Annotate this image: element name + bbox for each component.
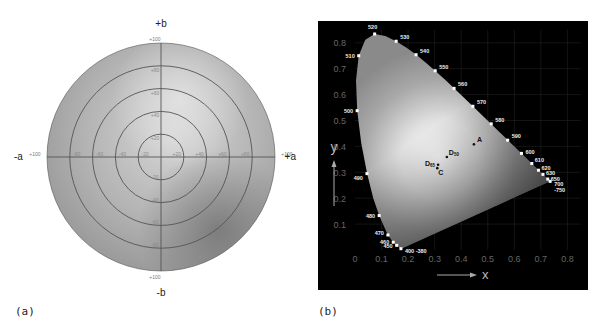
wavelength-label: 580 bbox=[495, 117, 504, 123]
wavelength-label: 530 bbox=[400, 34, 409, 40]
wavelength-marker-580 bbox=[490, 122, 493, 125]
tick-a: +20 bbox=[173, 151, 182, 157]
x-tick: 0.7 bbox=[535, 254, 548, 264]
cielab-panel: +100-80-60-40-20+20+40+60+80+100+100+80+… bbox=[0, 0, 300, 334]
y-tick: 0.8 bbox=[333, 38, 346, 48]
wavelength-label: 540 bbox=[420, 48, 429, 54]
y-tick: 0.5 bbox=[333, 116, 346, 126]
y-tick: 0.1 bbox=[333, 220, 346, 230]
tick-a: -20 bbox=[142, 151, 149, 157]
wavelength-marker-490 bbox=[365, 172, 368, 175]
x-tick: 0.4 bbox=[455, 254, 468, 264]
tick-b-neg: -40 bbox=[151, 197, 158, 203]
x-tick: 0.5 bbox=[481, 254, 494, 264]
wavelength-label: 490 bbox=[354, 175, 363, 181]
wavelength-label: -750 bbox=[554, 187, 565, 193]
wavelength-marker-480 bbox=[378, 214, 381, 217]
wavelength-label: 550 bbox=[439, 64, 448, 70]
axis-label-neg-a: -a bbox=[14, 151, 23, 162]
x-tick: 0.2 bbox=[402, 254, 415, 264]
tick-b-pos: +80 bbox=[151, 67, 160, 73]
wavelength-marker-500 bbox=[356, 109, 359, 112]
wavelength-marker-550 bbox=[434, 69, 437, 72]
axis-label-pos-b: +b bbox=[155, 18, 167, 29]
x-tick: 0.3 bbox=[428, 254, 441, 264]
cie-xy-diagram: 5205305405505605705805906006106206306507… bbox=[300, 0, 606, 334]
wavelength-marker-530 bbox=[395, 40, 398, 43]
wavelength-label: 480 bbox=[366, 213, 375, 219]
x-tick: 0.6 bbox=[508, 254, 521, 264]
wavelength-label: 450 bbox=[383, 243, 392, 249]
illuminant-d50 bbox=[446, 156, 449, 159]
wavelength-label: 520 bbox=[368, 24, 377, 30]
cielab-diagram: +100-80-60-40-20+20+40+60+80+100+100+80+… bbox=[0, 0, 300, 334]
wavelength-label: 470 bbox=[375, 230, 384, 236]
wavelength-label: 610 bbox=[535, 157, 544, 163]
tick-a: +60 bbox=[218, 151, 227, 157]
wavelength-marker-540 bbox=[415, 53, 418, 56]
y-tick: 0.7 bbox=[333, 64, 346, 74]
tick-b-pos: +60 bbox=[151, 90, 160, 96]
tick-b-neg: +100 bbox=[149, 274, 160, 280]
wavelength-marker-400 bbox=[399, 247, 402, 250]
wavelength-marker-560 bbox=[453, 87, 456, 90]
wavelength-label: 510 bbox=[346, 53, 355, 59]
wavelength-label: 400 -380 bbox=[405, 248, 427, 254]
wavelength-label: 560 bbox=[458, 81, 467, 87]
wavelength-marker-510 bbox=[357, 54, 360, 57]
y-axis-label: y bbox=[331, 139, 338, 155]
tick-b-pos: +20 bbox=[151, 135, 160, 141]
tick-a: -80 bbox=[73, 151, 80, 157]
tick-a: +80 bbox=[241, 151, 250, 157]
wavelength-label: 590 bbox=[512, 133, 521, 139]
wavelength-label: 600 bbox=[525, 149, 534, 155]
axis-label-pos-a: +a bbox=[285, 151, 297, 162]
wavelength-marker-600 bbox=[520, 152, 523, 155]
tick-a: -60 bbox=[96, 151, 103, 157]
y-tick: 0.2 bbox=[333, 194, 346, 204]
x-tick: 0 bbox=[352, 254, 357, 264]
tick-a: -40 bbox=[119, 151, 126, 157]
wavelength-marker-470 bbox=[386, 233, 389, 236]
tick-a: +100 bbox=[29, 151, 40, 157]
axis-label-neg-b: -b bbox=[157, 287, 166, 298]
y-tick: 0.3 bbox=[333, 168, 346, 178]
tick-b-neg: -80 bbox=[151, 242, 158, 248]
wavelength-label: 500 bbox=[344, 108, 353, 114]
tick-a: +40 bbox=[195, 151, 204, 157]
wavelength-label: 570 bbox=[477, 99, 486, 105]
y-tick: 0.6 bbox=[333, 90, 346, 100]
wavelength-marker-450 bbox=[395, 244, 398, 247]
tick-b-neg: -60 bbox=[151, 219, 158, 225]
wavelength-marker-570 bbox=[471, 105, 474, 108]
tick-b-neg: -20 bbox=[151, 174, 158, 180]
caption-a: (a) bbox=[15, 305, 35, 318]
cie-xy-panel: 5205305405505605705805906006106206306507… bbox=[300, 0, 606, 334]
illuminant-label: C bbox=[438, 169, 443, 176]
x-tick: 0.1 bbox=[375, 254, 388, 264]
wavelength-marker-590 bbox=[506, 139, 509, 142]
wavelength-marker-630 bbox=[541, 173, 544, 176]
wavelength-marker-620 bbox=[537, 169, 540, 172]
wavelength-marker-700 bbox=[549, 180, 552, 183]
illuminant-a bbox=[473, 143, 476, 146]
tick-b-pos: +100 bbox=[149, 36, 160, 42]
wavelength-marker-610 bbox=[530, 162, 533, 165]
x-axis-label: x bbox=[482, 267, 489, 282]
caption-b: (b) bbox=[318, 305, 338, 318]
wavelength-marker-520 bbox=[373, 32, 376, 35]
tick-b-pos: +40 bbox=[151, 112, 160, 118]
x-tick: 0.8 bbox=[561, 254, 574, 264]
illuminant-d65 bbox=[437, 163, 440, 166]
illuminant-label: A bbox=[477, 136, 482, 143]
